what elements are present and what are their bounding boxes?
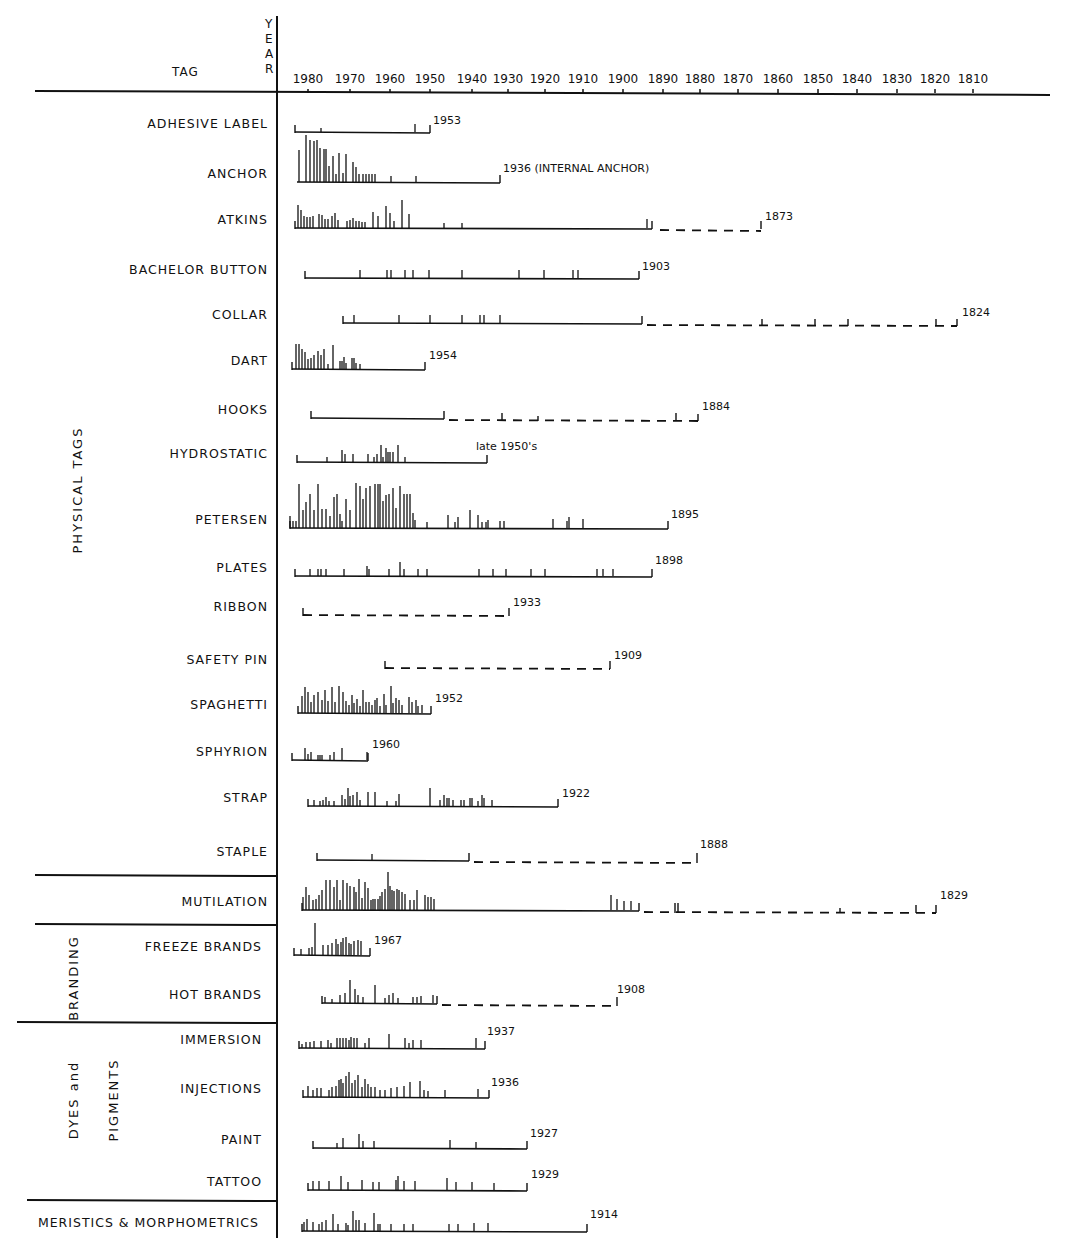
dashed-range [385, 668, 610, 669]
timeline-row: INJECTIONS1936 [180, 1072, 519, 1098]
tag-label: SAFETY PIN [186, 652, 268, 667]
x-tick-label: 1970 [335, 72, 366, 86]
tag-label: PAINT [221, 1132, 262, 1147]
tag-label: INJECTIONS [180, 1081, 262, 1096]
tag-label: MUTILATION [181, 894, 268, 909]
tag-label: RIBBON [214, 599, 269, 614]
first-use-year-label: 1829 [940, 889, 968, 902]
x-tick-label: 1890 [648, 72, 679, 86]
tag-label: IMMERSION [180, 1032, 262, 1047]
x-tick-label: 1900 [608, 72, 639, 86]
year-header-letter: A [265, 47, 274, 61]
x-tick-label: 1950 [415, 72, 446, 86]
first-use-year-label: 1922 [562, 787, 590, 800]
solid-range [308, 806, 558, 807]
timeline-row: MERISTICS & MORPHOMETRICS1914 [38, 1208, 618, 1232]
solid-range [302, 910, 639, 911]
dashed-range [647, 325, 957, 326]
tag-label: HOOKS [218, 402, 268, 417]
tag-label: MERISTICS & MORPHOMETRICS [38, 1215, 259, 1230]
x-tick-label: 1880 [685, 72, 716, 86]
solid-range [295, 132, 430, 133]
solid-range [298, 713, 431, 714]
dashed-range [449, 420, 698, 421]
x-tick-label: 1920 [530, 72, 561, 86]
first-use-year-label: 1960 [372, 738, 400, 751]
tag-label: HOT BRANDS [169, 987, 262, 1002]
tag-label: ADHESIVE LABEL [147, 116, 268, 131]
x-tick-label: 1820 [920, 72, 951, 86]
dashed-range [303, 615, 509, 616]
first-use-year-label: 1927 [530, 1127, 558, 1140]
timeline-row: PLATES1898 [216, 554, 683, 577]
x-tick-label: 1930 [493, 72, 524, 86]
x-tick-label: 1860 [763, 72, 794, 86]
dashed-range [660, 230, 761, 231]
group-label: DYES and [66, 1061, 81, 1139]
tag-label: TATTOO [206, 1174, 262, 1189]
solid-range [295, 576, 652, 577]
solid-range [343, 323, 642, 324]
first-use-year-label: 1888 [700, 838, 728, 851]
x-tick-label: 1830 [882, 72, 913, 86]
dashed-range [474, 862, 697, 863]
year-column-header: YEAR [264, 17, 274, 76]
first-use-year-label: 1903 [642, 260, 670, 273]
tag-label: ATKINS [218, 212, 268, 227]
first-use-year-label: 1953 [433, 114, 461, 127]
group-divider [17, 1022, 277, 1023]
solid-range [299, 1048, 485, 1049]
solid-range [317, 860, 469, 861]
first-use-year-label: 1952 [435, 692, 463, 705]
first-use-year-label: 1929 [531, 1168, 559, 1181]
solid-range [297, 182, 500, 183]
timeline-row: BACHELOR BUTTON1903 [129, 260, 670, 279]
tag-label: STAPLE [216, 844, 268, 859]
first-use-year-label: 1936 [491, 1076, 519, 1089]
first-use-year-label: 1914 [590, 1208, 618, 1221]
x-tick-label: 1840 [842, 72, 873, 86]
year-header-letter: Y [264, 17, 273, 31]
solid-range [292, 369, 425, 370]
chart-header: TAG YEAR [171, 17, 274, 79]
tag-label: PETERSEN [195, 512, 268, 527]
first-use-year-label: 1884 [702, 400, 730, 413]
first-use-year-label: 1937 [487, 1025, 515, 1038]
timeline-row: TATTOO1929 [206, 1168, 559, 1191]
timeline-row: SPHYRION1960 [196, 738, 400, 761]
solid-range [308, 1190, 527, 1191]
timeline-row: SPAGHETTI1952 [190, 686, 463, 714]
group-label: PIGMENTS [106, 1058, 121, 1141]
first-use-year-label: 1909 [614, 649, 642, 662]
timeline-row: RIBBON1933 [214, 596, 542, 616]
solid-range [295, 228, 652, 229]
group-label: BRANDING [66, 935, 81, 1021]
x-tick-label: 1960 [375, 72, 406, 86]
first-use-year-label: 1908 [617, 983, 645, 996]
timeline-row: STAPLE1888 [216, 838, 728, 863]
solid-range [292, 760, 368, 761]
timeline-row: MUTILATION1829 [181, 872, 968, 913]
solid-range [294, 955, 370, 956]
dashed-range [644, 912, 936, 913]
first-use-year-label: 1936 (INTERNAL ANCHOR) [503, 162, 649, 175]
group-labels: PHYSICAL TAGSBRANDINGDYES andPIGMENTS [66, 427, 121, 1142]
tag-label: COLLAR [212, 307, 268, 322]
solid-range [302, 1231, 587, 1232]
timeline-row: HOT BRANDS1908 [169, 980, 645, 1006]
first-use-year-label: 1898 [655, 554, 683, 567]
tag-label: STRAP [223, 790, 268, 805]
tag-label: FREEZE BRANDS [145, 939, 262, 954]
tag-label: BACHELOR BUTTON [129, 262, 268, 277]
timeline-row: HOOKS1884 [218, 400, 730, 421]
solid-range [290, 528, 668, 529]
tag-label: DART [231, 353, 268, 368]
tag-label: ANCHOR [207, 166, 268, 181]
group-divider [35, 924, 277, 925]
x-tick-label: 1870 [723, 72, 754, 86]
year-header-letter: R [265, 62, 274, 76]
timeline-row: DART1954 [231, 344, 457, 370]
timeline-row: COLLAR1824 [212, 306, 990, 326]
group-label: PHYSICAL TAGS [70, 427, 85, 554]
timeline-row: STRAP1922 [223, 787, 590, 807]
